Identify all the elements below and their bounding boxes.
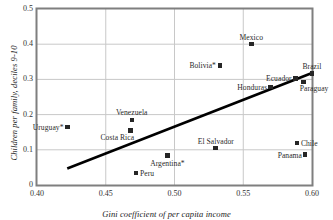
data-point-label: El Salvador xyxy=(198,137,234,146)
data-point-label: Ecuador xyxy=(266,74,292,83)
data-point-label: Venezuela xyxy=(116,108,148,117)
data-point-label: Uruguay* xyxy=(33,123,64,132)
data-point-label: Costa Rica xyxy=(101,133,135,142)
data-point-marker xyxy=(295,141,300,146)
scatter-chart: Uruguay*Costa RicaVenezuelaPeruArgentina… xyxy=(0,0,333,220)
data-point-marker xyxy=(218,63,223,68)
data-point-marker xyxy=(134,171,139,176)
data-point-label: Argentina* xyxy=(150,159,185,168)
data-point-marker xyxy=(293,76,298,81)
data-point-marker xyxy=(213,146,218,151)
data-point-marker xyxy=(165,153,170,158)
data-point-marker xyxy=(310,71,315,76)
x-axis-title: Gini coefficient of per capita income xyxy=(0,209,333,219)
x-tick-label: 0.55 xyxy=(228,189,258,198)
y-axis-title: Children per family, deciles 9-10 xyxy=(9,28,19,178)
trendline xyxy=(67,73,312,168)
x-tick-label: 0.40 xyxy=(22,189,52,198)
data-point-label: Mexico xyxy=(240,33,264,42)
x-tick-label: 0.45 xyxy=(91,189,121,198)
data-point-marker xyxy=(268,85,273,90)
x-tick-label: 0.50 xyxy=(160,189,190,198)
y-tick-label: 0 xyxy=(9,180,33,189)
data-point-label: Peru xyxy=(140,169,154,178)
data-point-label: Brazil xyxy=(303,62,322,71)
data-point-marker xyxy=(249,42,254,47)
data-point-label: Bolivia* xyxy=(189,61,216,70)
data-point-marker xyxy=(130,118,135,123)
x-tick-label: 0.60 xyxy=(297,189,327,198)
data-point-label: Honduras xyxy=(237,83,267,92)
chart-canvas xyxy=(0,0,333,220)
data-point-marker xyxy=(65,125,70,130)
data-point-label: Panama xyxy=(278,151,302,160)
data-point-marker xyxy=(303,152,308,157)
y-tick-label: 0.5 xyxy=(9,4,33,13)
data-point-label: Paraguay xyxy=(300,84,329,93)
data-point-label: Chile xyxy=(301,139,318,148)
